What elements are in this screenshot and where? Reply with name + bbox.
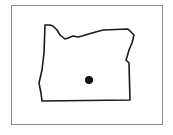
location-marker[interactable] — [85, 76, 93, 84]
oregon-map — [0, 0, 173, 135]
oregon-state-outline — [39, 25, 134, 101]
